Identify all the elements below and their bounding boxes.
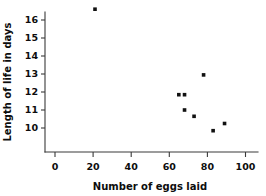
data-point: [202, 73, 206, 77]
y-axis: 10111213141516: [25, 12, 45, 152]
x-axis: 020406080100: [45, 152, 258, 172]
data-point: [183, 108, 187, 112]
y-tick-label: 16: [25, 14, 39, 25]
x-tick-label: 60: [163, 161, 177, 172]
x-tick-label: 100: [236, 161, 256, 172]
x-tick-label: 40: [125, 161, 139, 172]
y-axis-title: Length of life in days: [2, 22, 13, 141]
data-points: [93, 7, 226, 132]
y-tick-label: 11: [25, 104, 38, 115]
data-point: [177, 93, 181, 97]
data-point: [223, 122, 227, 126]
data-point: [183, 93, 187, 97]
data-point: [192, 115, 196, 119]
x-tick-label: 80: [201, 161, 215, 172]
y-tick-label: 14: [25, 50, 39, 61]
x-tick-label: 0: [52, 161, 59, 172]
x-tick-label: 20: [86, 161, 100, 172]
plot-area: 10111213141516 020406080100 Number of eg…: [0, 0, 266, 196]
x-axis-title: Number of eggs laid: [93, 181, 207, 192]
y-tick-label: 15: [25, 32, 38, 43]
data-point: [93, 7, 97, 11]
y-tick-label: 10: [25, 122, 39, 133]
y-tick-group: 10111213141516: [25, 14, 45, 133]
x-tick-group: 020406080100: [52, 152, 256, 172]
scatter-chart: 10111213141516 020406080100 Number of eg…: [0, 0, 266, 196]
data-point: [211, 129, 215, 133]
y-tick-label: 13: [25, 68, 38, 79]
y-tick-label: 12: [25, 86, 38, 97]
